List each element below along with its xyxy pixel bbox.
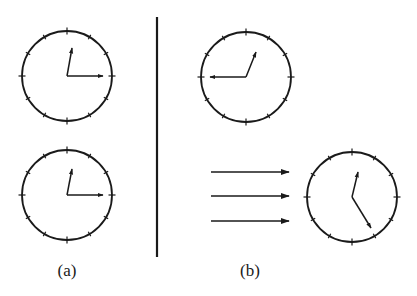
clock-face-b-top [198, 29, 295, 126]
panel-label-b: (b) [240, 262, 260, 279]
panel-label-a: (a) [58, 262, 77, 279]
minute-hand-arrow-icon [352, 197, 371, 228]
clock-diagram [0, 0, 417, 296]
hour-hand-arrow-icon [352, 172, 358, 197]
clock-face-a-bottom [19, 147, 116, 244]
hour-hand-arrow-icon [67, 169, 72, 195]
hour-hand-arrow-icon [67, 48, 72, 76]
motion-arrows-group [211, 172, 289, 221]
hour-hand-arrow-icon [246, 52, 256, 77]
clock-face-b-bottom [304, 149, 401, 246]
clocks-group [19, 28, 401, 246]
clock-face-a-top [19, 28, 116, 125]
